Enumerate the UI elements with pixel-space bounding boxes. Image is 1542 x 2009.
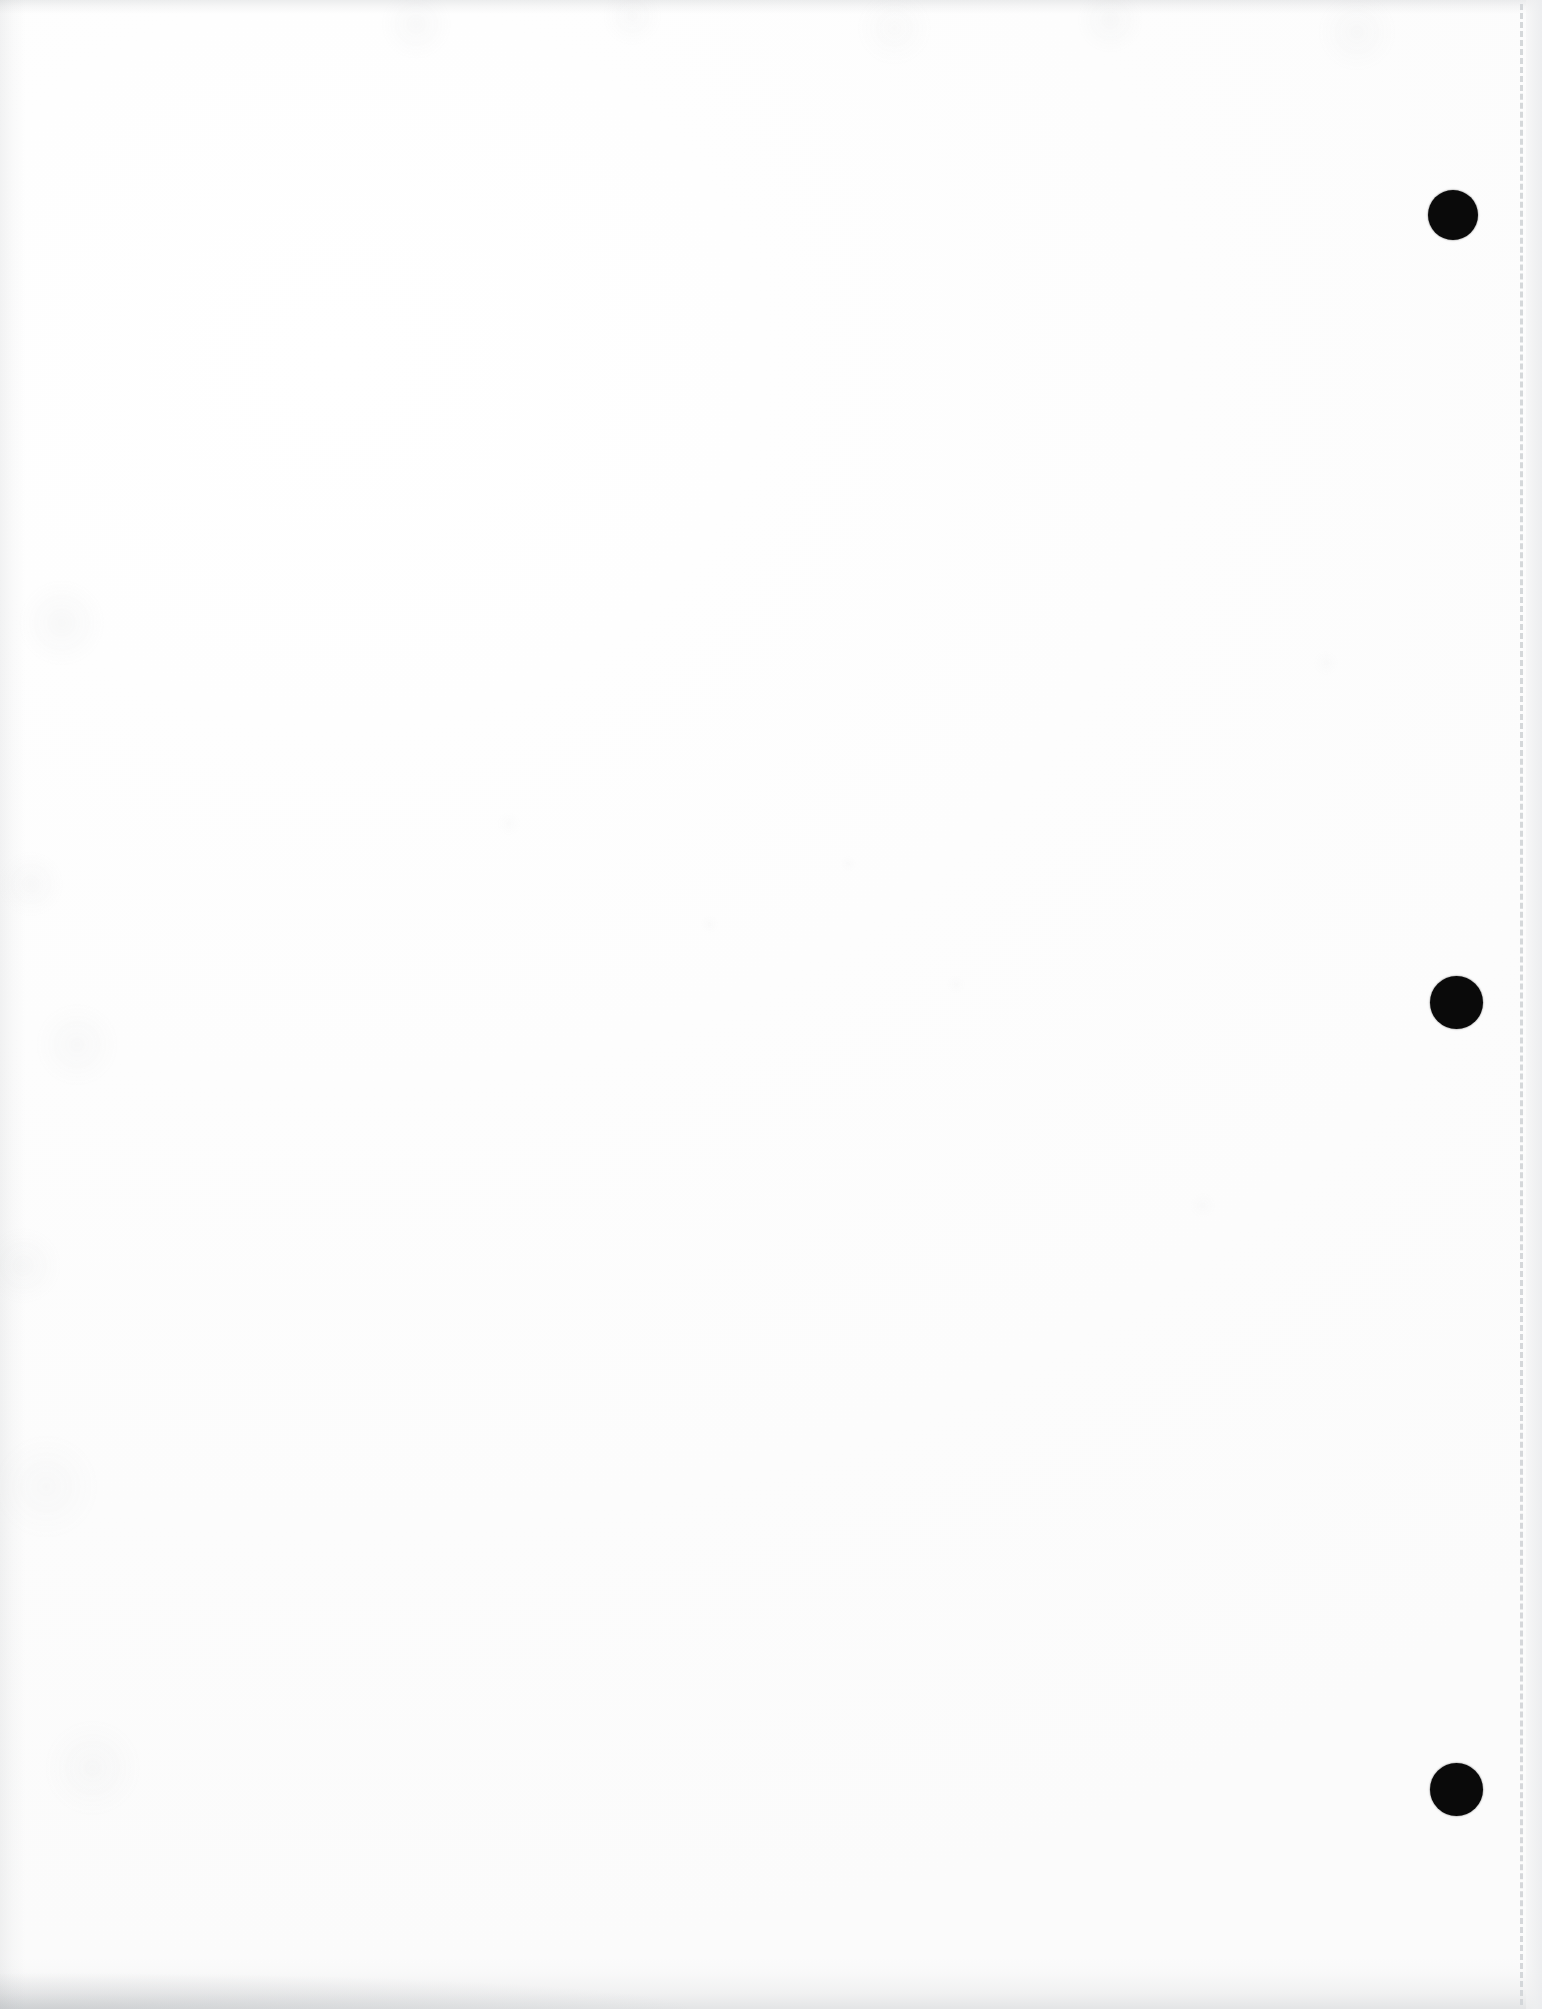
- registration-dot-middle: [1430, 976, 1483, 1029]
- scanned-page: [0, 0, 1542, 2009]
- dashed-perforation-line: [1520, 4, 1523, 2005]
- registration-dot-bottom: [1430, 1763, 1483, 1816]
- paper-background: [0, 0, 1542, 2009]
- registration-dot-top: [1428, 190, 1478, 240]
